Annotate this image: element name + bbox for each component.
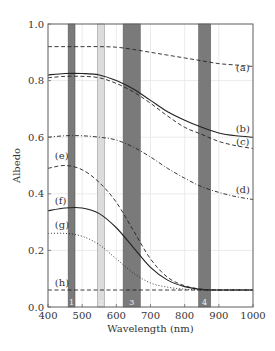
y-tick-label: 0.8 <box>28 75 44 86</box>
curve-label-c: (c) <box>236 136 250 147</box>
curve-label-a: (a) <box>236 62 250 73</box>
y-tick-label: 0.2 <box>28 245 44 256</box>
y-tick-label: 0.4 <box>28 188 44 199</box>
band-label: 3 <box>129 298 134 307</box>
band-2: 2 <box>98 24 105 307</box>
albedo-chart: 1234 4005006007008009001000 0.00.20.40.6… <box>0 0 275 351</box>
curve-label-f: (f) <box>55 195 67 206</box>
curve-label-e: (e) <box>55 150 69 161</box>
band-label: 2 <box>98 298 103 307</box>
curve-labels: (a)(b)(c)(d)(e)(f)(g)(h) <box>55 62 250 288</box>
band-label: 1 <box>69 298 74 307</box>
y-axis-label: Albedo <box>11 148 22 184</box>
band-rect <box>123 24 140 307</box>
x-tick-label: 500 <box>73 310 92 321</box>
band-label: 4 <box>202 298 207 307</box>
wavelength-bands: 1234 <box>68 24 210 307</box>
curve-label-b: (b) <box>236 123 250 134</box>
band-3: 3 <box>123 24 140 307</box>
grid <box>48 24 253 307</box>
x-tick-label: 600 <box>107 310 126 321</box>
y-tick-label: 0.6 <box>28 132 44 143</box>
x-tick-label: 900 <box>209 310 228 321</box>
band-rect <box>199 24 211 307</box>
y-tick-label: 0.0 <box>28 302 44 313</box>
x-tick-label: 800 <box>175 310 194 321</box>
x-tick-label: 700 <box>141 310 160 321</box>
x-axis-label: Wavelength (nm) <box>107 323 193 334</box>
curve-label-d: (d) <box>236 184 250 195</box>
band-4: 4 <box>199 24 211 307</box>
y-tick-label: 1.0 <box>28 19 44 30</box>
x-tick-label: 1000 <box>240 310 265 321</box>
curve-label-h: (h) <box>55 277 69 288</box>
curve-label-g: (g) <box>55 219 69 230</box>
band-rect <box>98 24 105 307</box>
